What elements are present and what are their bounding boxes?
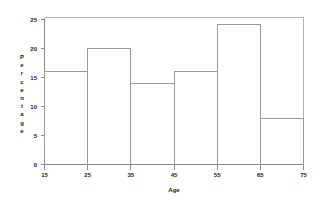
y-tick-label-0: 0 — [34, 162, 38, 168]
x-axis-title: Age — [168, 187, 180, 193]
y-tick-label-25: 25 — [30, 17, 37, 23]
x-tick-marks — [45, 165, 304, 170]
histogram-figure: 0 5 10 15 20 25 15 25 35 45 55 65 75 — [0, 0, 316, 204]
y-tick-marks — [41, 20, 45, 165]
histogram-bar — [131, 83, 174, 164]
y-axis-title-letter: e — [20, 128, 24, 134]
x-tick-label-55: 55 — [214, 172, 221, 178]
y-axis-title-letter: e — [20, 87, 24, 93]
x-tick-label-45: 45 — [171, 172, 178, 178]
y-axis-title: Percentage — [20, 54, 24, 134]
y-axis-title-letter: t — [21, 103, 23, 109]
x-tick-label-75: 75 — [300, 172, 307, 178]
y-tick-label-5: 5 — [34, 133, 38, 139]
x-tick-label-35: 35 — [127, 172, 134, 178]
y-axis-title-letter: r — [21, 70, 24, 76]
y-axis-title-letter: n — [20, 95, 24, 101]
histogram-bar — [217, 25, 260, 165]
x-tick-label-15: 15 — [41, 172, 48, 178]
histogram-bars — [45, 25, 304, 165]
histogram-bar — [88, 48, 131, 164]
chart-canvas: 0 5 10 15 20 25 15 25 35 45 55 65 75 — [0, 0, 316, 204]
y-axis-title-letter: P — [20, 54, 24, 60]
y-axis-title-letter: c — [20, 79, 24, 85]
x-tick-label-65: 65 — [257, 172, 264, 178]
histogram-bar — [260, 118, 303, 164]
histogram-bar — [45, 72, 88, 165]
y-axis-title-letter: a — [20, 111, 24, 117]
y-axis-title-letter: e — [20, 62, 24, 68]
y-tick-label-20: 20 — [30, 46, 37, 52]
histogram-bar — [174, 72, 217, 165]
x-tick-label-25: 25 — [84, 172, 91, 178]
y-tick-labels: 0 5 10 15 20 25 — [30, 17, 37, 168]
x-tick-labels: 15 25 35 45 55 65 75 — [41, 172, 307, 178]
y-tick-label-15: 15 — [30, 75, 37, 81]
y-axis-title-letter: g — [20, 120, 24, 126]
y-tick-label-10: 10 — [30, 104, 37, 110]
